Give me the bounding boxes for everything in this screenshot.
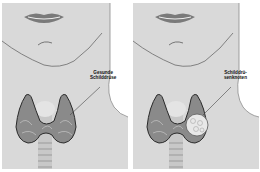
thyroid-nodule-panel: Schilddrü- senknoten — [133, 3, 259, 169]
label-healthy-thyroid: Gesunde Schilddrüse — [90, 70, 116, 81]
label-thyroid-nodule: Schilddrü- senknoten — [224, 70, 247, 81]
thyroid-nodule-icon — [186, 114, 208, 136]
neck-illustration-nodule — [133, 3, 259, 169]
label-line-2: senknoten — [224, 75, 247, 80]
label-line-2: Schilddrüse — [90, 75, 116, 80]
healthy-thyroid-panel: Gesunde Schilddrüse — [2, 3, 128, 169]
neck-illustration-healthy — [2, 3, 128, 169]
